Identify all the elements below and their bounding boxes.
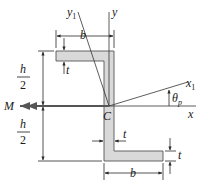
top-b-label: b	[80, 28, 86, 42]
bottom-flange-thickness-dimension	[165, 138, 176, 174]
moment-arrow	[20, 102, 109, 110]
web-t-label: t	[123, 127, 127, 141]
z-section-diagram: y1 y x1 x θp C M b t t t b h 2 h 2	[0, 0, 201, 184]
half-height-dimension-bottom	[38, 107, 102, 161]
x1-axis-label: x1	[185, 76, 195, 92]
bottom-b-label: b	[130, 166, 136, 180]
x-axis-label: x	[187, 107, 194, 121]
svg-text:2: 2	[20, 133, 26, 147]
moment-label: M	[3, 99, 15, 113]
bottom-t-label: t	[178, 148, 182, 162]
svg-text:h: h	[20, 62, 26, 76]
y-axis-label: y	[111, 5, 118, 19]
y1-axis-label: y1	[66, 5, 76, 21]
svg-text:h: h	[20, 117, 26, 131]
half-height-label-bottom: h 2	[17, 117, 30, 147]
top-t-label: t	[66, 63, 70, 77]
half-height-label-top: h 2	[17, 62, 30, 92]
half-height-dimension-top	[38, 51, 54, 105]
centroid-label: C	[103, 109, 112, 123]
theta-p-label: θp	[172, 91, 182, 107]
svg-text:2: 2	[20, 78, 26, 92]
